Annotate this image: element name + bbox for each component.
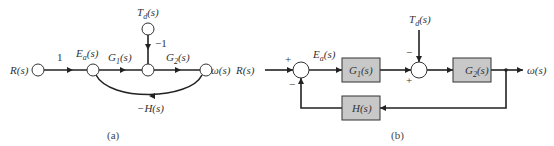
label-error: Ea(s) bbox=[312, 48, 336, 63]
label-g1: G1(s) bbox=[108, 51, 132, 66]
wire-feedback-left bbox=[301, 78, 342, 108]
node-sum bbox=[142, 64, 154, 76]
sign-sum1-minus: − bbox=[289, 78, 295, 90]
arrow-icon bbox=[336, 67, 342, 73]
caption-b: (b) bbox=[391, 129, 404, 142]
summing-junction-1 bbox=[293, 62, 309, 78]
arrow-icon bbox=[517, 67, 523, 73]
sign-sum1-plus: + bbox=[285, 53, 291, 65]
label-td: Td(s) bbox=[137, 6, 159, 21]
sign-sum2-plus: + bbox=[406, 74, 412, 86]
label-feedback: −H(s) bbox=[137, 102, 164, 115]
arrow-icon bbox=[447, 67, 453, 73]
label-h: H(s) bbox=[351, 102, 372, 115]
arrow-icon bbox=[298, 78, 304, 84]
caption-a: (a) bbox=[107, 129, 120, 142]
arrow-icon bbox=[405, 67, 411, 73]
arrow-icon bbox=[145, 44, 151, 50]
node-e bbox=[87, 64, 99, 76]
sign-sum2-minus: − bbox=[406, 46, 412, 58]
arrow-icon bbox=[175, 67, 181, 73]
figure-canvas: R(s) 1 Ea(s) G1(s) G2(s) Td(s) −1 ω(s) −… bbox=[0, 0, 554, 146]
arrow-icon bbox=[380, 105, 386, 111]
panel-b: G1(s) G2(s) H(s) R(s) ω(s) Ea(s) Td(s) +… bbox=[235, 13, 547, 142]
label-gain-1: 1 bbox=[57, 51, 63, 63]
label-disturbance: Td(s) bbox=[409, 13, 431, 28]
node-td bbox=[142, 23, 154, 35]
label-e: Ea(s) bbox=[75, 47, 99, 62]
label-input: R(s) bbox=[235, 64, 255, 77]
arrow-icon bbox=[416, 56, 422, 62]
label-r: R(s) bbox=[9, 64, 29, 77]
panel-a: R(s) 1 Ea(s) G1(s) G2(s) Td(s) −1 ω(s) −… bbox=[9, 6, 231, 142]
label-output: ω(s) bbox=[527, 64, 547, 77]
branch-feedback bbox=[96, 75, 202, 95]
summing-junction-2 bbox=[411, 62, 427, 78]
arrow-icon bbox=[120, 67, 126, 73]
label-td-gain: −1 bbox=[155, 37, 167, 49]
arrow-icon bbox=[287, 67, 293, 73]
label-g2: G2(s) bbox=[166, 51, 190, 66]
node-r bbox=[32, 64, 44, 76]
arrow-icon bbox=[67, 67, 73, 73]
label-w: ω(s) bbox=[211, 64, 231, 77]
